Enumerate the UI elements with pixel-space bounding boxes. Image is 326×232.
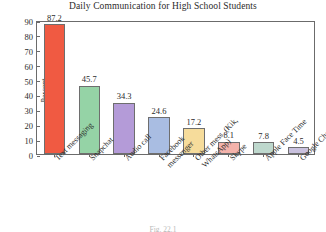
bar-slot: 17.2: [183, 20, 205, 154]
x-axis-label: Facebookmessenger: [158, 156, 171, 169]
x-axis-label: Text messaging: [53, 156, 60, 163]
bar-value-label: 7.8: [258, 131, 269, 141]
bar-slot: 34.3: [113, 20, 135, 154]
y-axis-tick-label: 10: [25, 136, 38, 146]
chart-title: Daily Communication for High School Stud…: [0, 1, 326, 11]
y-axis-tick-label: 80: [25, 32, 38, 42]
bar-value-label: 17.2: [186, 117, 201, 127]
x-axis-label: Apple Face Time: [263, 156, 270, 163]
y-axis-tick-label: 90: [25, 17, 38, 27]
y-axis-tick-label: 50: [25, 77, 38, 87]
bar-slot: 24.6: [148, 20, 170, 154]
x-axis-label-line: Audio call: [123, 156, 130, 163]
x-axis-label-line: messenger: [165, 163, 172, 170]
bar-slot: 7.8: [253, 20, 275, 154]
bar-value-label: 4.5: [293, 136, 304, 146]
figure-container: Daily Communication for High School Stud…: [0, 0, 326, 232]
bar[interactable]: [79, 86, 101, 154]
x-axis-labels: Text messagingSnapchatAudio callFacebook…: [36, 156, 315, 230]
bar-value-label: 87.2: [47, 13, 62, 23]
bar-slot: 87.2: [44, 20, 66, 154]
bar-value-label: 24.6: [152, 106, 167, 116]
x-axis-label: Audio call: [123, 156, 130, 163]
x-axis-label-line: Text messaging: [53, 156, 60, 163]
y-axis-tick-label: 40: [25, 91, 38, 101]
y-axis-tick-label: 70: [25, 47, 38, 57]
bar-value-label: 34.3: [117, 91, 132, 101]
x-axis-label: Google Chat: [298, 156, 305, 163]
x-axis-label: Other mess. (Kik,WhatsApp): [193, 156, 206, 169]
x-axis-label-line: Apple Face Time: [263, 156, 270, 163]
x-axis-label-line: Skype: [228, 156, 235, 163]
x-axis-label-line: Facebook: [158, 156, 165, 163]
x-axis-label-line: Snapchat: [88, 156, 95, 163]
x-axis-label-line: Other mess. (Kik,: [193, 156, 200, 163]
y-axis-tick-label: 20: [25, 121, 38, 131]
x-axis-label: Skype: [228, 156, 235, 163]
bar[interactable]: [44, 24, 66, 154]
x-axis-label-line: WhatsApp): [200, 163, 207, 170]
y-axis-tick-label: 60: [25, 62, 38, 72]
figure-caption: Fig. 22.1: [0, 225, 326, 232]
x-axis-label: Snapchat: [88, 156, 95, 163]
y-axis-tick-label: 30: [25, 106, 38, 116]
bar-value-label: 45.7: [82, 74, 97, 84]
x-axis-label-line: Google Chat: [298, 156, 305, 163]
